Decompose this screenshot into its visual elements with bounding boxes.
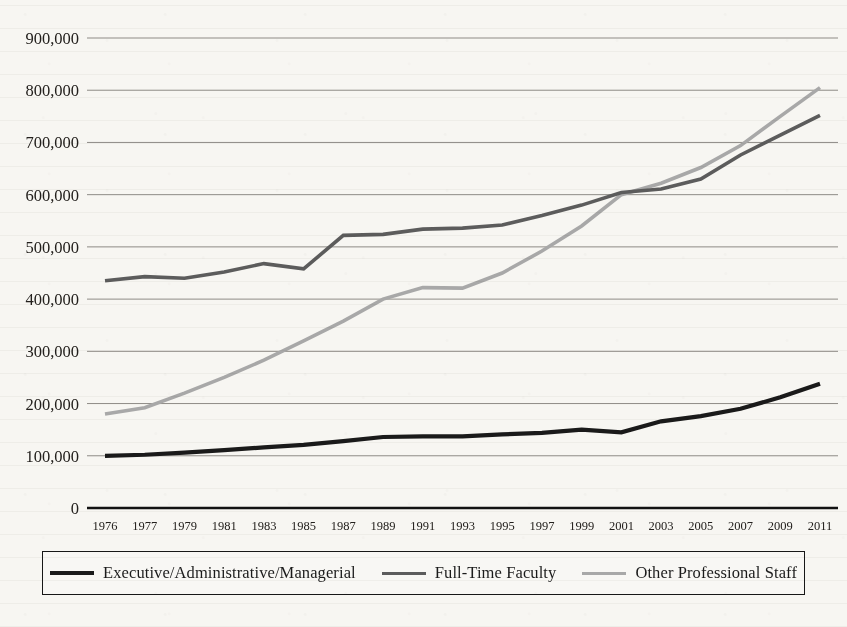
x-axis-tick-label: 1985 [291,519,316,533]
x-axis-tick-label: 2009 [768,519,793,533]
legend-label: Executive/Administrative/Managerial [103,563,356,583]
x-axis-tick-label: 1976 [93,519,118,533]
y-axis-tick-label: 0 [71,499,79,518]
x-axis-tick-label: 1987 [331,519,356,533]
chart-figure: 0100,000200,000300,000400,000500,000600,… [0,0,847,627]
x-axis-tick-label: 1983 [251,519,276,533]
legend-entry[interactable]: Full-Time Faculty [382,563,557,583]
y-axis-tick-label: 500,000 [25,238,79,257]
legend-line-swatch [382,572,426,575]
y-axis-tick-label: 300,000 [25,342,79,361]
chart-legend: Executive/Administrative/ManagerialFull-… [42,551,805,595]
legend-line-swatch [582,572,626,575]
x-axis-tick-label: 1977 [132,519,157,533]
y-axis-tick-label: 600,000 [25,186,79,205]
x-axis-tick-label: 1999 [569,519,594,533]
x-axis-tick-label: 1991 [410,519,435,533]
series-line [105,384,820,456]
y-axis-tick-label: 800,000 [25,81,79,100]
x-axis-tick-label: 2003 [649,519,674,533]
y-axis-tick-label: 900,000 [25,29,79,48]
x-axis-tick-label: 1989 [371,519,396,533]
x-axis-tick-labels: 1976197719791981198319851987198919911993… [93,519,833,533]
x-axis-tick-label: 2007 [728,519,753,533]
x-axis-tick-label: 2001 [609,519,634,533]
y-axis-tick-label: 400,000 [25,290,79,309]
x-axis-tick-label: 1979 [172,519,197,533]
y-axis-tick-label: 700,000 [25,133,79,152]
gridlines-group [87,38,838,456]
y-axis-tick-label: 100,000 [25,447,79,466]
y-axis-tick-label: 200,000 [25,395,79,414]
y-axis-tick-labels: 0100,000200,000300,000400,000500,000600,… [25,29,79,518]
x-axis-tick-label: 2011 [808,519,833,533]
x-axis-tick-label: 1995 [490,519,515,533]
series-line [105,115,820,281]
legend-entry[interactable]: Executive/Administrative/Managerial [50,563,356,583]
x-axis-tick-label: 1981 [212,519,237,533]
series-line [105,88,820,414]
legend-label: Other Professional Staff [635,563,797,583]
legend-entry[interactable]: Other Professional Staff [582,563,797,583]
x-axis-tick-label: 1993 [450,519,475,533]
legend-line-swatch [50,571,94,575]
legend-label: Full-Time Faculty [435,563,557,583]
x-axis-tick-label: 2005 [688,519,713,533]
line-chart-plot: 0100,000200,000300,000400,000500,000600,… [0,0,847,627]
x-axis-tick-label: 1997 [529,519,554,533]
